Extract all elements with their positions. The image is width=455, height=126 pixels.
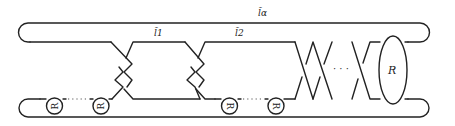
twist-2 xyxy=(185,42,295,99)
r-box: R xyxy=(379,36,408,104)
link-diagram: · · · R R R R R l̃α l̃1 l̃2 xyxy=(0,0,455,126)
circle-r-label: R xyxy=(271,103,281,110)
circle-r-3: R xyxy=(222,98,238,114)
twist-1 xyxy=(111,42,200,99)
bottom-loop xyxy=(19,99,429,117)
circle-r-4: R xyxy=(268,98,284,114)
label-l-1: l̃1 xyxy=(154,27,163,38)
top-loop xyxy=(19,23,430,42)
r-box-label: R xyxy=(387,64,396,77)
circle-r-label: R xyxy=(50,102,60,109)
ellipsis-label: · · · xyxy=(333,63,349,74)
circle-r-label: R xyxy=(96,102,106,109)
label-l-alpha: l̃α xyxy=(258,7,267,18)
label-l-2: l̃2 xyxy=(235,27,244,38)
circle-r-label: R xyxy=(225,103,235,110)
circle-r-2: R xyxy=(93,98,109,114)
circle-r-1: R xyxy=(47,98,63,114)
